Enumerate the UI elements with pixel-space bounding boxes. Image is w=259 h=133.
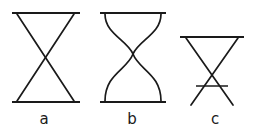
panel-c-diagonal-right-to-left <box>191 38 238 105</box>
panel-c-caption: c <box>200 112 230 127</box>
panel-a-caption: a <box>29 112 59 127</box>
figure-panel: a b c <box>0 0 259 133</box>
panel-b-group <box>100 13 166 102</box>
panel-c-diagonal-left-to-right <box>186 38 233 105</box>
panel-b-curve-left-to-right <box>105 14 161 101</box>
panel-b-curve-right-to-left <box>105 14 161 101</box>
panel-a-group <box>12 13 80 102</box>
panel-b-caption: b <box>117 112 147 127</box>
panel-c-group <box>180 37 244 105</box>
